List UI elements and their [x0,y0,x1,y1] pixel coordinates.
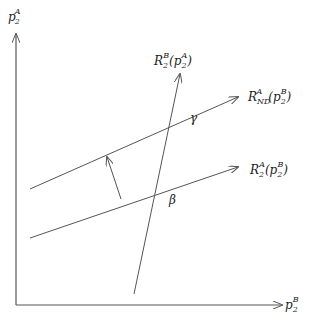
reaction-curve-r2a [30,167,238,238]
rnda-label: RNDA(p2B) [248,90,291,106]
shift-arrow [107,157,121,199]
point-gamma-label: γ [190,112,197,124]
x-axis-label: p2B [285,298,299,314]
point-beta-label: β [169,194,176,206]
r2a-label: R2A(p2B) [250,163,288,179]
reaction-curve-rnda [30,97,238,189]
r2b-label: R2B(p2A) [154,54,192,70]
reaction-curve-r2b [134,74,180,294]
y-axis-label: p2A [8,10,21,26]
